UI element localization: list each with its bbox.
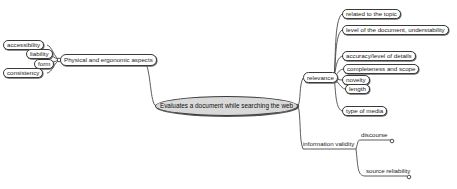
branch-relevance[interactable]: relevance [303, 72, 338, 83]
node-accuracy-level-of-details[interactable]: accuracy/level of details [342, 51, 416, 61]
node-level-of-document[interactable]: level of the document, understability [342, 25, 449, 35]
branch-physical-ergonomic[interactable]: Physical and ergonomic aspects [60, 54, 157, 66]
node-discourse[interactable]: discourse [361, 131, 387, 139]
node-related-to-topic[interactable]: related to the topic [342, 9, 401, 19]
node-length[interactable]: length [345, 84, 370, 94]
node-liability[interactable]: liability [26, 49, 53, 59]
mind-map-canvas: Evaluates a document while searching the… [0, 0, 457, 189]
node-completeness-and-scope[interactable]: completeness and scope [343, 64, 419, 74]
branch-information-validity[interactable]: information validity [303, 140, 354, 148]
central-topic[interactable]: Evaluates a document while searching the… [155, 96, 298, 116]
node-consistency[interactable]: consistency [3, 68, 43, 78]
node-source-reliability[interactable]: source reliability [366, 167, 410, 175]
node-type-of-media[interactable]: type of media [342, 106, 387, 116]
